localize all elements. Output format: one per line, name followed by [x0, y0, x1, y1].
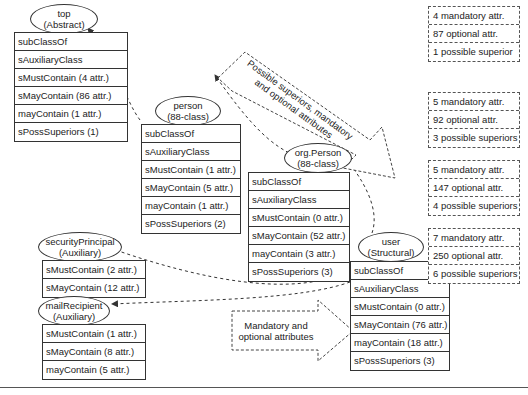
- class-attribute-row: mayContain (5 attr.): [43, 361, 145, 379]
- class-type: (88-class): [297, 158, 339, 169]
- class-attribute-row: sAuxiliaryClass: [249, 191, 349, 209]
- class-attribute-row: mayContain (1 attr.): [15, 105, 127, 123]
- class-attribute-row: sMustContain (2 attr.): [43, 261, 145, 279]
- class-attribute-row: sMayContain (52 attr.): [249, 227, 349, 245]
- class-attribute-row: sMayContain (86 attr.): [15, 87, 127, 105]
- summary-row: 5 mandatory attr.: [429, 93, 519, 111]
- class-attribute-row: sMustContain (4 attr.): [15, 69, 127, 87]
- summary-row: 6 possible superiors: [429, 265, 519, 283]
- class-box-person: subClassOf sAuxiliaryClass sMustContain …: [141, 124, 241, 234]
- bottom-rule: [0, 387, 528, 388]
- horizontal-arrow-label: Mandatory and optional attributes: [234, 320, 318, 342]
- summary-box-top: 4 mandatory attr. 87 optional attr. 1 po…: [428, 6, 520, 62]
- class-attribute-row: subClassOf: [15, 33, 127, 51]
- class-attribute-row: sMayContain (12 attr.): [43, 279, 145, 297]
- class-attribute-row: subClassOf: [142, 125, 240, 143]
- summary-row: 7 mandatory attr.: [429, 229, 519, 247]
- class-attribute-row: sMayContain (5 attr.): [142, 179, 240, 197]
- class-type: (Auxiliary): [59, 247, 101, 258]
- class-box-orgperson: subClassOf sAuxiliaryClass sMustContain …: [248, 172, 350, 282]
- class-name: user: [382, 236, 400, 247]
- class-box-securityprincipal: sMustContain (2 attr.) sMayContain (12 a…: [42, 260, 146, 298]
- auxiliary-connector: [112, 282, 350, 304]
- class-name: person: [173, 100, 202, 111]
- class-oval-user: user (Structural): [358, 232, 424, 262]
- arrow-label-line: Mandatory and: [234, 320, 318, 331]
- class-name: securityPrincipal: [45, 236, 114, 247]
- class-attribute-row: sPossSuperiors (1): [15, 123, 127, 141]
- summary-row: 4 mandatory attr.: [429, 7, 519, 25]
- class-box-mailrecipient: sMustContain (1 attr.) sMayContain (8 at…: [42, 324, 146, 380]
- class-attribute-row: sMayContain (76 attr.): [351, 316, 449, 334]
- class-type: (Auxiliary): [53, 311, 95, 322]
- class-box-top: subClassOf sAuxiliaryClass sMustContain …: [14, 32, 128, 142]
- summary-row: 4 possible superiors: [429, 197, 519, 215]
- class-attribute-row: mayContain (1 attr.): [142, 197, 240, 215]
- summary-row: 250 optional attr.: [429, 247, 519, 265]
- class-attribute-row: sPossSuperiors (3): [249, 263, 349, 281]
- class-attribute-row: subClassOf: [249, 173, 349, 191]
- class-name: org.Person: [295, 147, 341, 158]
- summary-row: 1 possible superior: [429, 43, 519, 61]
- class-attribute-row: sPossSuperiors (2): [142, 215, 240, 233]
- summary-row: 3 possible superiors: [429, 129, 519, 147]
- class-attribute-row: sAuxiliaryClass: [142, 143, 240, 161]
- class-attribute-row: sMustContain (0 attr.): [249, 209, 349, 227]
- class-attribute-row: mayContain (3 attr.): [249, 245, 349, 263]
- summary-box-orgperson: 5 mandatory attr. 147 optional attr. 4 p…: [428, 160, 520, 216]
- class-type: (Abstract): [43, 19, 84, 30]
- class-oval-person: person (88-class): [155, 96, 221, 126]
- class-oval-top: top (Abstract): [30, 4, 98, 34]
- class-oval-orgperson: org.Person (88-class): [284, 143, 352, 173]
- class-oval-mailrecipient: mailRecipient (Auxiliary): [38, 296, 110, 326]
- summary-row: 92 optional attr.: [429, 111, 519, 129]
- summary-box-user: 7 mandatory attr. 250 optional attr. 6 p…: [428, 228, 520, 284]
- class-attribute-row: sPossSuperiors (3): [351, 352, 449, 370]
- class-attribute-row: sMustContain (0 attr.): [351, 298, 449, 316]
- summary-row: 147 optional attr.: [429, 179, 519, 197]
- class-attribute-row: mayContain (18 attr.): [351, 334, 449, 352]
- summary-box-person: 5 mandatory attr. 92 optional attr. 3 po…: [428, 92, 520, 148]
- class-name: top: [57, 8, 70, 19]
- class-attribute-row: sAuxiliaryClass: [15, 51, 127, 69]
- class-attribute-row: sMustContain (1 attr.): [43, 325, 145, 343]
- class-attribute-row: sMayContain (8 attr.): [43, 343, 145, 361]
- summary-row: 87 optional attr.: [429, 25, 519, 43]
- class-type: (Structural): [368, 247, 415, 258]
- class-attribute-row: sMustContain (1 attr.): [142, 161, 240, 179]
- class-type: (88-class): [167, 111, 209, 122]
- class-name: mailRecipient: [45, 300, 102, 311]
- summary-row: 5 mandatory attr.: [429, 161, 519, 179]
- arrow-label-line: optional attributes: [234, 331, 318, 342]
- class-oval-securityprincipal: securityPrincipal (Auxiliary): [38, 232, 122, 262]
